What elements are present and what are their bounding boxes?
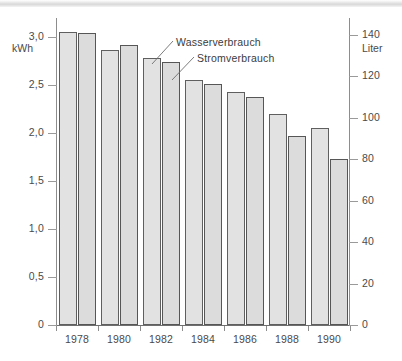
annotation-stromverbrauch: Stromverbrauch [197, 52, 275, 64]
dual-axis-bar-chart: kWh Liter 00,51,01,52,02,53,0 0204060801… [0, 0, 402, 361]
annotation-wasserverbrauch: Wasserverbrauch [176, 36, 261, 48]
